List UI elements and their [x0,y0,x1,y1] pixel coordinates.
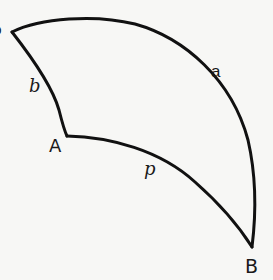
arc-p [67,136,252,247]
arc-a [12,18,255,247]
label-arc-b: b [29,77,41,95]
label-arc-p: p [144,160,156,178]
partial-label: o [0,22,2,38]
label-vertex-b: B [245,257,258,276]
label-vertex-a: A [49,137,61,155]
label-arc-a: a [211,63,220,80]
diagram-canvas [0,0,273,280]
